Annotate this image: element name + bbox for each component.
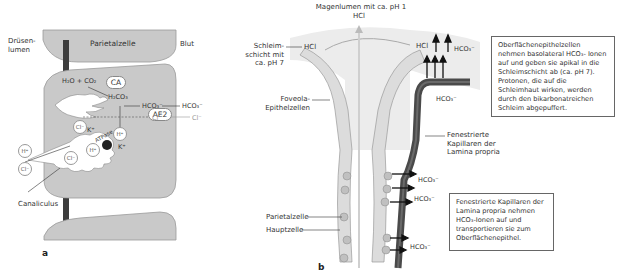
magenlumen-label: Magenlumen mit ca. pH 1 [296, 3, 426, 12]
fenestrierte-label: Fenestrierte Kapillaren der Lamina propr… [447, 131, 500, 157]
hcl-top-label: HCl [349, 12, 369, 21]
hcl-left-label: HCl [304, 43, 316, 52]
hco3-3-label: HCO₃⁻ [410, 243, 431, 251]
parietalzelle-b-label: Parietalzelle [266, 213, 308, 222]
hco3-capillary-top-label: HCO₃⁻ [436, 95, 457, 103]
info-box-capillaries: Fenestrierte Kapillaren der Lamina propr… [449, 193, 554, 251]
schleimschicht-label: Schleim- schicht mit ca. pH 7 [238, 42, 284, 68]
panel-b-letter: b [318, 262, 324, 272]
hcl-right-label: HCl [416, 42, 428, 51]
hauptzelle-label: Hauptzelle [266, 226, 303, 235]
hco3-2-label: HCO₃⁻ [414, 195, 435, 203]
hco3-1-label: HCO₃⁻ [418, 176, 439, 184]
info-box-surface-epithelium: Oberflächenepithelzellen nehmen basolate… [491, 36, 615, 117]
hco3-top-label: HCO₃⁻ [454, 45, 475, 53]
foveola-label: Foveola- Epithelzellen [250, 95, 310, 112]
